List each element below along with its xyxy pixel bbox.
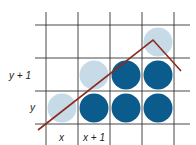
- label-y-plus-1: y + 1: [9, 71, 31, 81]
- dark-pixel-circle: [112, 61, 141, 90]
- label-x: x: [59, 133, 64, 143]
- dark-pixel-circle: [144, 94, 173, 123]
- dark-pixel-circle: [112, 94, 141, 123]
- label-y: y: [30, 103, 35, 113]
- light-pixel-circle: [144, 28, 173, 57]
- label-x-plus-1: x + 1: [83, 133, 105, 143]
- dark-pixel-circle: [80, 94, 109, 123]
- dark-pixel-circle: [144, 61, 173, 90]
- light-pixel-circle: [80, 61, 109, 90]
